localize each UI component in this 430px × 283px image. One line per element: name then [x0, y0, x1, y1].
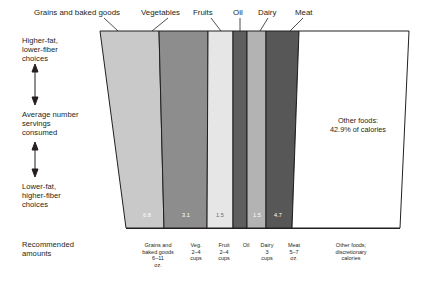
bottom-amount-vegetables: Veg. 2–4 cups [183, 242, 209, 262]
band-dairy [247, 31, 266, 228]
band-value-fruits: 1.5 [208, 212, 232, 218]
bottom-amount-other-foods: Other foods; discretionary calories [315, 242, 387, 262]
arrow-average-to-lower [32, 142, 38, 177]
band-grains [100, 31, 164, 228]
leader-line-dairy [260, 18, 268, 31]
diagram-canvas: Higher-fat, lower-fiber choices Average … [0, 0, 430, 283]
bottom-amount-meat: Meat 5–7 oz. [281, 242, 307, 262]
bottom-amount-oil: Oil [238, 242, 254, 249]
band-fruits [207, 31, 233, 228]
band-oil [233, 31, 247, 228]
leader-line-meat [290, 18, 303, 31]
bottom-amount-fruits: Fruit 2–4 cups [211, 242, 237, 262]
band-value-meat: 4.7 [266, 212, 290, 218]
other-foods-caption: Other foods: 42.9% of calories [306, 116, 410, 135]
band-value-vegetables: 3.1 [174, 212, 198, 218]
band-value-grains: 6.8 [135, 212, 159, 218]
leader-line-fruits [211, 18, 221, 31]
leader-line-vegetables [152, 18, 168, 31]
leader-line-grains [104, 18, 118, 31]
diagram-graphics [0, 0, 430, 283]
bottom-amount-grains: Grains and baked goods 6–11 oz. [135, 242, 181, 268]
band-vegetables [159, 31, 208, 228]
arrow-higher-to-average [32, 64, 38, 105]
bottom-amount-dairy: Dairy 3 cups [254, 242, 280, 262]
